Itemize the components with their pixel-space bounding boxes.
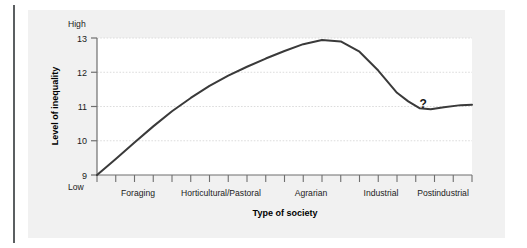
x-axis-title: Type of society — [253, 208, 318, 218]
x-category-label-foraging: Foraging — [121, 188, 155, 198]
x-category-label-postindustrial: Postindustrial — [417, 188, 469, 198]
y-tick-label-10: 10 — [77, 136, 87, 146]
data-series-line — [97, 40, 472, 175]
y-tick-label-9: 9 — [82, 171, 87, 181]
x-category-label-industrial: Industrial — [364, 188, 399, 198]
y-tick-label-11: 11 — [78, 102, 87, 112]
y-tick-label-12: 12 — [77, 68, 87, 78]
y-tick-label-13: 13 — [77, 34, 87, 44]
x-category-label-agrarian: Agrarian — [295, 188, 328, 198]
y-tick-marks — [91, 38, 97, 175]
inequality-line-chart: 13 12 11 10 9 High Low Level of inequali… — [0, 0, 527, 248]
y-axis-low-label: Low — [68, 182, 85, 192]
x-tick-marks — [97, 175, 472, 182]
y-axis-high-label: High — [68, 19, 86, 29]
figure-root: 13 12 11 10 9 High Low Level of inequali… — [0, 0, 527, 248]
x-category-label-horticultural-pastoral: Horticultural/Pastoral — [181, 188, 261, 198]
annotation-question-mark: ? — [420, 97, 427, 111]
y-axis-title: Level of inequality — [50, 67, 60, 146]
